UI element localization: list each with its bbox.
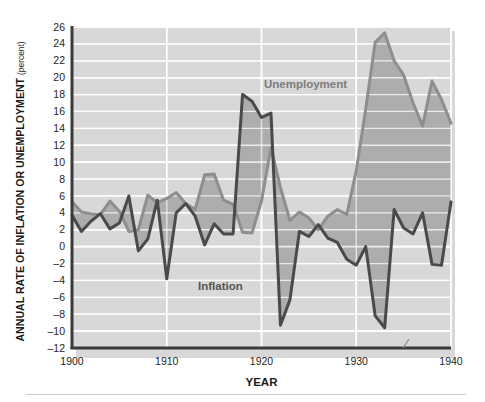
y-tick-label: 10 bbox=[53, 156, 65, 168]
chart-figure: –12–10–8–6–4–202468101214161820222426190… bbox=[0, 0, 485, 402]
x-tick-label: 1910 bbox=[155, 355, 179, 367]
unemployment-series-label: Unemployment bbox=[264, 78, 347, 90]
bottom-divider bbox=[26, 394, 466, 395]
y-tick-label: 2 bbox=[59, 223, 65, 235]
y-tick-label: –8 bbox=[53, 308, 65, 320]
y-tick-label: 24 bbox=[53, 37, 65, 49]
y-tick-label: 16 bbox=[53, 105, 65, 117]
y-tick-label: –4 bbox=[53, 274, 65, 286]
x-tick-label: 1920 bbox=[250, 355, 274, 367]
y-axis-title: ANNUAL RATE OF INFLATION OR UNEMPLOYMENT… bbox=[14, 41, 26, 341]
x-tick-label: 1900 bbox=[60, 355, 84, 367]
y-tick-labels: –12–10–8–6–4–202468101214161820222426 bbox=[47, 21, 65, 354]
y-tick-label: –10 bbox=[47, 325, 65, 337]
y-tick-label: 4 bbox=[59, 206, 65, 218]
y-tick-label: –2 bbox=[53, 257, 65, 269]
y-tick-label: 22 bbox=[53, 54, 65, 66]
y-tick-label: 12 bbox=[53, 139, 65, 151]
y-tick-label: –12 bbox=[47, 342, 65, 354]
inflation-series-label: Inflation bbox=[198, 280, 243, 292]
y-tick-label: 6 bbox=[59, 190, 65, 202]
y-tick-label: 18 bbox=[53, 88, 65, 100]
inflation-unemployment-chart: –12–10–8–6–4–202468101214161820222426190… bbox=[0, 0, 485, 402]
svg-text:ANNUAL RATE OF INFLATION OR UN: ANNUAL RATE OF INFLATION OR UNEMPLOYMENT… bbox=[14, 41, 26, 341]
y-tick-label: 26 bbox=[53, 21, 65, 33]
x-tick-label: 1930 bbox=[345, 355, 369, 367]
y-tick-label: 8 bbox=[59, 173, 65, 185]
y-tick-label: 14 bbox=[53, 122, 65, 134]
y-tick-label: 0 bbox=[59, 240, 65, 252]
x-tick-label: 1940 bbox=[439, 355, 463, 367]
y-tick-label: 20 bbox=[53, 71, 65, 83]
x-axis-title: YEAR bbox=[246, 376, 279, 388]
y-tick-label: –6 bbox=[53, 291, 65, 303]
